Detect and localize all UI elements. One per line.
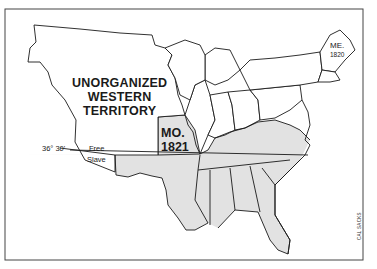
missouri-year: 1821 bbox=[161, 140, 189, 154]
artist-credit: CAL SACKS bbox=[357, 212, 362, 240]
free-label: Free bbox=[89, 144, 104, 153]
missouri-label: MO. 1821 bbox=[161, 126, 189, 154]
territory-label-line2: WESTERN bbox=[72, 90, 167, 104]
maine-year: 1820 bbox=[330, 50, 344, 59]
unorganized-territory-label: UNORGANIZED WESTERN TERRITORY bbox=[72, 76, 167, 118]
missouri-name: MO. bbox=[161, 126, 189, 140]
maine-name: ME. bbox=[330, 41, 344, 50]
maine-label: ME. 1820 bbox=[330, 41, 344, 59]
slave-label: Slave bbox=[87, 155, 106, 164]
latitude-label: 36° 30' bbox=[42, 144, 65, 153]
territory-label-line1: UNORGANIZED bbox=[72, 76, 167, 90]
territory-label-line3: TERRITORY bbox=[72, 104, 167, 118]
